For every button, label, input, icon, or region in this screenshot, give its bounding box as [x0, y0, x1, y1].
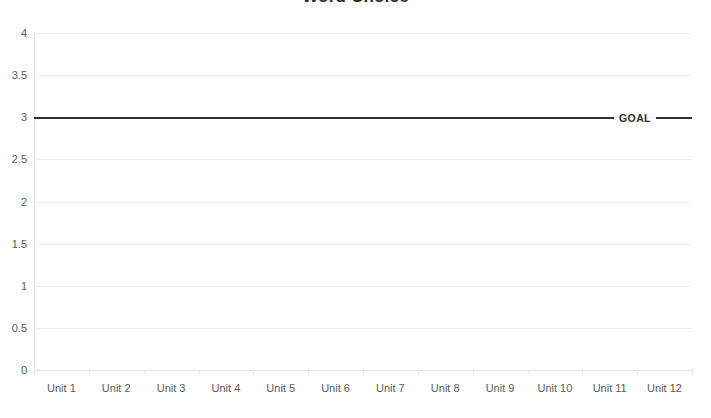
gridline [34, 159, 692, 160]
y-axis-tick-labels: 00.511.522.533.54 [0, 33, 27, 370]
y-axis-tick-label: 0.5 [0, 322, 27, 334]
x-axis-tick-mark [692, 370, 693, 375]
x-axis-tick-label: Unit 12 [637, 382, 692, 402]
x-axis-tick-labels: Unit 1Unit 2Unit 3Unit 4Unit 5Unit 6Unit… [34, 382, 692, 402]
y-axis-tick-label: 2 [0, 196, 27, 208]
x-axis-tick-label: Unit 11 [582, 382, 637, 402]
x-axis-tick-label: Unit 8 [418, 382, 473, 402]
x-axis-tick-label: Unit 4 [198, 382, 253, 402]
goal-line-left-segment [34, 117, 614, 119]
y-axis-tick-label: 1 [0, 280, 27, 292]
x-axis-tick-label: Unit 7 [363, 382, 418, 402]
chart-title: Word Choice [0, 0, 711, 7]
plot-area [34, 33, 692, 370]
x-axis-tick-mark [528, 370, 529, 375]
x-axis-tick-mark [308, 370, 309, 375]
gridline [34, 328, 692, 329]
x-axis-tick-mark [253, 370, 254, 375]
x-axis-tick-mark [637, 370, 638, 375]
x-axis-tick-label: Unit 1 [34, 382, 89, 402]
chart-container: Word Choice 00.511.522.533.54 Unit 1Unit… [0, 0, 711, 418]
x-axis-tick-label: Unit 6 [308, 382, 363, 402]
gridline [34, 202, 692, 203]
y-axis-tick-label: 2.5 [0, 153, 27, 165]
x-axis-tick-mark [144, 370, 145, 375]
x-axis-tick-mark [473, 370, 474, 375]
y-axis-tick-label: 1.5 [0, 238, 27, 250]
x-axis-tick-label: Unit 3 [144, 382, 199, 402]
goal-label: GOAL [619, 113, 651, 124]
x-axis-tick-label: Unit 10 [527, 382, 582, 402]
y-axis-tick-label: 0 [0, 364, 27, 376]
gridline [34, 286, 692, 287]
y-axis-tick-label: 3 [0, 111, 27, 123]
x-axis-tick-mark [418, 370, 419, 375]
x-axis-tick-mark [34, 370, 35, 375]
gridline [34, 33, 692, 34]
x-axis-tick-mark [199, 370, 200, 375]
x-axis-tick-mark [582, 370, 583, 375]
goal-line-right-segment [656, 117, 692, 119]
gridline [34, 244, 692, 245]
x-axis-tick-mark [363, 370, 364, 375]
y-axis-tick-label: 3.5 [0, 69, 27, 81]
x-axis-tick-mark [89, 370, 90, 375]
x-axis-tick-label: Unit 2 [89, 382, 144, 402]
gridline [34, 75, 692, 76]
x-axis-tick-label: Unit 9 [473, 382, 528, 402]
x-axis-tick-label: Unit 5 [253, 382, 308, 402]
y-axis-tick-label: 4 [0, 27, 27, 39]
